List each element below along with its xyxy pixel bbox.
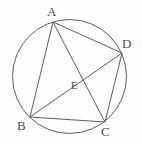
geometry-figure: A B C D E [0,0,142,145]
vertex-label-b: B [17,119,26,132]
vertex-label-e: E [71,80,78,91]
vertex-label-c: C [101,125,110,138]
vertex-label-d: D [122,37,131,50]
vertex-label-a: A [47,5,56,18]
circumcircle [13,20,127,134]
segment-BC [30,117,105,122]
segment-AB [30,22,53,117]
segment-AC [53,22,105,122]
